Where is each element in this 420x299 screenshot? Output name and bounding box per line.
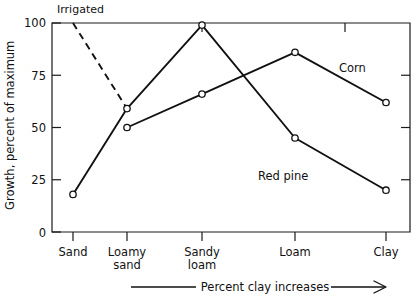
x-tick-label-loam: Loam <box>279 245 311 259</box>
y-tick-label-50: 50 <box>31 121 46 135</box>
x-tick-label-loamy-sand-line2: sand <box>113 258 141 272</box>
series-line-red-pine <box>73 25 386 194</box>
x-axis-caption: Percent clay increases <box>201 280 329 294</box>
series-label-corn: Corn <box>339 61 366 75</box>
y-axis-title: Growth, percent of maximum <box>3 41 17 210</box>
x-tick-label-sand: Sand <box>59 245 88 259</box>
y-tick-label-75: 75 <box>31 69 46 83</box>
x-tick-label-loamy-sand-line1: Loamy <box>108 245 146 259</box>
x-tick-label-sandy-loam-line1: Sandy <box>184 245 220 259</box>
series-line-irrigated <box>73 23 127 109</box>
y-tick-label-100: 100 <box>24 16 46 30</box>
line-chart: 100 75 50 25 0 Growth, percent of maximu… <box>0 0 420 299</box>
y-tick-label-25: 25 <box>31 173 46 187</box>
x-axis-caption-arrow-icon <box>331 281 386 293</box>
x-axis-ticks-top <box>202 23 345 32</box>
chart-figure: 100 75 50 25 0 Growth, percent of maximu… <box>0 0 420 299</box>
x-axis-ticks <box>73 232 386 241</box>
plot-frame <box>52 23 410 232</box>
x-tick-label-sandy-loam-line2: loam <box>188 258 216 272</box>
y-tick-label-0: 0 <box>39 226 46 240</box>
x-tick-label-clay: Clay <box>373 245 398 259</box>
y-axis-ticks <box>52 23 61 232</box>
annotation-irrigated: Irrigated <box>57 3 104 16</box>
series-label-red-pine: Red pine <box>258 169 308 183</box>
series-markers-red-pine <box>70 22 389 198</box>
y-axis-ticks-right <box>401 75 410 180</box>
